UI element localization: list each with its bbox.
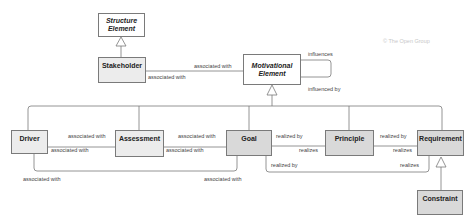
- element-label: Structure Element: [99, 17, 144, 33]
- principle-box[interactable]: Principle: [325, 130, 374, 156]
- relationship-label: realizes: [299, 147, 318, 153]
- generalization-arrow-icon: [116, 37, 126, 46]
- relationship-label: influences: [308, 51, 333, 57]
- element-label: Principle: [335, 135, 365, 155]
- structure-element-box[interactable]: Structure Element: [98, 13, 145, 37]
- relationship-label: associated with: [68, 133, 106, 139]
- influence-loop: [301, 60, 331, 77]
- copyright-notice: © The Open Group: [383, 38, 430, 44]
- requirement-box[interactable]: Requirement: [417, 130, 464, 156]
- element-label: Constraint: [423, 195, 458, 214]
- assessment-box[interactable]: Assessment: [115, 130, 164, 157]
- element-label: Motivational Element: [244, 62, 300, 78]
- generalization-bus: [28, 106, 442, 130]
- relationship-label: associated with: [166, 147, 204, 153]
- element-label: Stakeholder: [102, 62, 142, 82]
- motivational-element-box[interactable]: Motivational Element: [243, 54, 301, 85]
- relationship-label: associated with: [204, 176, 242, 182]
- element-label: Goal: [241, 135, 257, 155]
- relationship-label: influenced by: [308, 86, 340, 92]
- relationship-label: realized by: [276, 133, 303, 139]
- element-label: Assessment: [119, 135, 160, 156]
- driver-box[interactable]: Driver: [11, 130, 48, 154]
- relationship-label: associated with: [178, 133, 216, 139]
- relationship-label: realizes: [400, 162, 419, 168]
- connector-layer: [0, 0, 476, 224]
- relationship-label: realizes: [393, 147, 412, 153]
- goal-box[interactable]: Goal: [226, 130, 272, 156]
- constraint-box[interactable]: Constraint: [417, 190, 463, 215]
- relationship-label: associated with: [51, 147, 89, 153]
- relationship-label: associated with: [194, 63, 232, 69]
- element-label: Driver: [19, 135, 39, 153]
- relationship-label: realized by: [380, 133, 407, 139]
- element-label: Requirement: [419, 135, 462, 155]
- relationship-label: associated with: [148, 74, 186, 80]
- relationship-label: associated with: [23, 176, 61, 182]
- relationship-label: realized by: [271, 162, 298, 168]
- generalization-arrow-icon: [267, 85, 277, 95]
- stakeholder-box[interactable]: Stakeholder: [98, 57, 146, 83]
- generalization-arrow-icon: [436, 157, 446, 167]
